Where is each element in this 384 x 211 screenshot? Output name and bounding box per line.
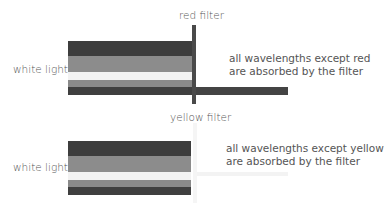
red-filter-bar — [192, 25, 196, 104]
band-violet-blue — [68, 141, 191, 156]
band-green — [68, 156, 191, 172]
band-green — [68, 56, 192, 72]
band-orange — [68, 80, 192, 87]
transmitted-red-beam — [192, 87, 288, 95]
transmitted-yellow-beam — [193, 172, 288, 176]
red-caption-line2: are absorbed by the filter — [229, 65, 363, 78]
red-filter-label: red filter — [179, 9, 224, 21]
white-light-spectrum-bottom — [68, 141, 191, 195]
yellow-caption-line1: all wavelengths except yellow — [226, 142, 384, 155]
white-light-label-top: white light — [13, 63, 68, 75]
white-light-spectrum-top — [68, 41, 192, 95]
band-orange — [68, 180, 191, 187]
band-red — [68, 87, 192, 95]
band-yellow — [68, 172, 191, 180]
yellow-caption-line2: are absorbed by the filter — [226, 155, 360, 168]
yellow-filter-bar — [193, 123, 197, 203]
band-red — [68, 187, 191, 195]
red-caption-line1: all wavelengths except red — [229, 52, 370, 65]
band-yellow — [68, 72, 192, 80]
yellow-filter-label: yellow filter — [170, 111, 231, 123]
band-violet-blue — [68, 41, 192, 56]
white-light-label-bottom: white light — [13, 161, 68, 173]
